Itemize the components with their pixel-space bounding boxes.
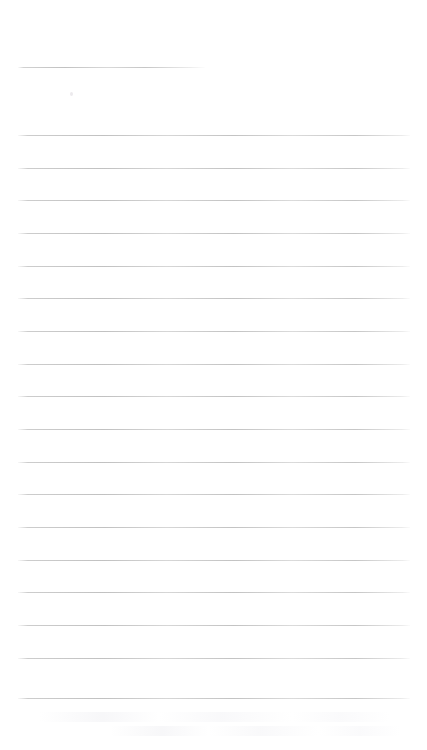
body-rule-13-text[interactable] xyxy=(20,503,408,529)
body-rule-5-text[interactable] xyxy=(20,242,408,268)
body-rule-17-text[interactable] xyxy=(20,634,408,660)
body-rule-8-text[interactable] xyxy=(20,340,408,366)
body-rule-18-text[interactable] xyxy=(20,674,408,700)
body-rule-2-text[interactable] xyxy=(20,144,408,170)
body-rule-10-text[interactable] xyxy=(20,405,408,431)
scan-speck-1 xyxy=(70,92,73,96)
scan-smudge-2 xyxy=(110,726,400,736)
body-rule-16-text[interactable] xyxy=(20,601,408,627)
body-rule-6-text[interactable] xyxy=(20,274,408,300)
note-page xyxy=(0,0,427,750)
body-rule-4-text[interactable] xyxy=(20,209,408,235)
body-rule-11-text[interactable] xyxy=(20,438,408,464)
body-rule-15-text[interactable] xyxy=(20,568,408,594)
body-rule-12-text[interactable] xyxy=(20,470,408,496)
scan-smudge-1 xyxy=(40,712,390,722)
body-rule-3-text[interactable] xyxy=(20,176,408,202)
body-rule-9-text[interactable] xyxy=(20,372,408,398)
writing-surface[interactable] xyxy=(0,0,427,750)
title-rule-text[interactable] xyxy=(20,43,203,69)
body-rule-1-text[interactable] xyxy=(20,111,408,137)
body-rule-7-text[interactable] xyxy=(20,307,408,333)
body-rule-14-text[interactable] xyxy=(20,536,408,562)
